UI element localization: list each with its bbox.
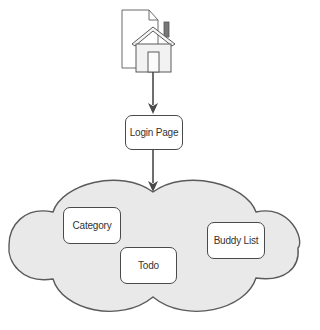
node-buddy-list[interactable]: Buddy List [207, 222, 265, 259]
home-page-icon [122, 10, 175, 72]
node-todo[interactable]: Todo [120, 247, 177, 284]
node-label: Login Page [130, 127, 179, 138]
node-category[interactable]: Category [63, 207, 121, 244]
edge-login-to-cloud [148, 150, 158, 192]
node-label: Category [73, 220, 112, 231]
node-login-page[interactable]: Login Page [125, 115, 183, 150]
node-label: Todo [138, 260, 159, 271]
edge-home-to-login [148, 72, 158, 114]
node-label: Buddy List [214, 235, 259, 246]
